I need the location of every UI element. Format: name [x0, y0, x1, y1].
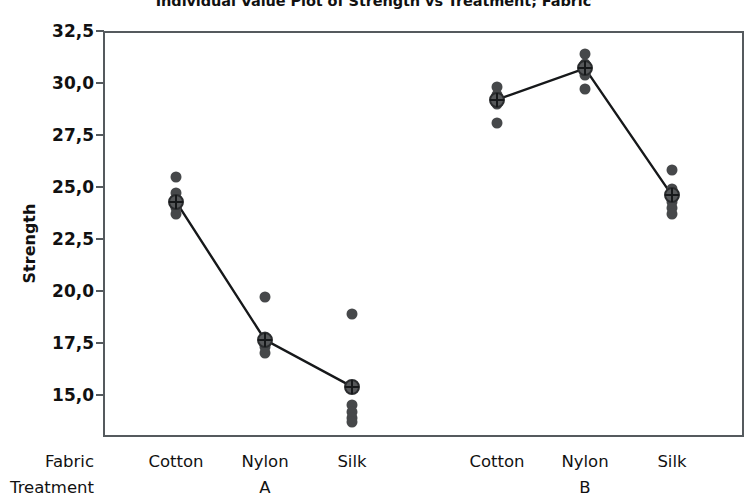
mean-line-a	[176, 202, 352, 387]
row-header-treatment: Treatment	[0, 478, 94, 497]
fabric-label-b-silk: Silk	[617, 452, 727, 471]
treatment-label-a: A	[210, 478, 320, 497]
treatment-label-b: B	[530, 478, 640, 497]
mean-line-b	[497, 68, 672, 195]
row-header-fabric: Fabric	[0, 452, 94, 471]
mean-connection-lines	[0, 0, 747, 502]
chart-root: Individual Value Plot of Strength vs Tre…	[0, 0, 747, 502]
fabric-label-a-silk: Silk	[297, 452, 407, 471]
